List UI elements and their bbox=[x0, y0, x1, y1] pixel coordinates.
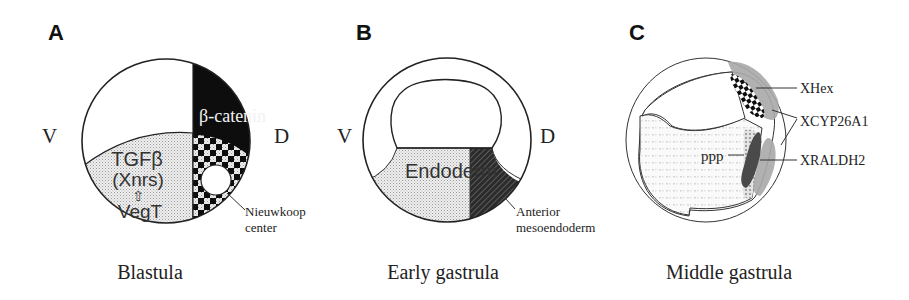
embryo-figure: A β-catenin TGFβ (Xnrs) ⇧ VegT V D Nieuw… bbox=[0, 0, 909, 300]
panel-b: B Endoderm V D Anterior mesoendoderm Ear… bbox=[337, 20, 595, 284]
beta-catenin-label: β-catenin bbox=[199, 106, 266, 126]
tgfb-label: TGFβ bbox=[111, 148, 163, 170]
blastula-embryo bbox=[78, 55, 263, 235]
nieuwkoop-leader-line bbox=[227, 193, 245, 210]
dorsal-label-b: D bbox=[540, 124, 555, 148]
center-label: center bbox=[245, 220, 277, 235]
endoderm-label: Endoderm bbox=[405, 160, 497, 182]
mesoendoderm-label: mesoendoderm bbox=[516, 220, 595, 235]
nieuwkoop-label: Nieuwkoop bbox=[245, 204, 306, 219]
xhex-label: XHex bbox=[800, 81, 833, 96]
nieuwkoop-center bbox=[201, 165, 231, 195]
xcyp26a1-label: XCYP26A1 bbox=[800, 114, 868, 129]
mesoendoderm-leader-line bbox=[505, 198, 515, 209]
caption-early-gastrula: Early gastrula bbox=[387, 261, 499, 284]
blastocoel bbox=[391, 80, 501, 149]
ventral-label-a: V bbox=[42, 124, 57, 148]
vegt-label: VegT bbox=[118, 201, 163, 222]
ppp-label: ppp bbox=[701, 148, 724, 164]
panel-letter-b: B bbox=[356, 20, 372, 45]
xnrs-label: (Xnrs) bbox=[112, 169, 164, 190]
panel-c: C XHex XCYP26A1 XRALDH2 ppp Middle gastr… bbox=[626, 20, 868, 284]
panel-a: A β-catenin TGFβ (Xnrs) ⇧ VegT V D Nieuw… bbox=[42, 20, 306, 283]
panel-letter-c: C bbox=[629, 20, 645, 45]
panel-letter-a: A bbox=[48, 20, 64, 45]
anterior-label: Anterior bbox=[516, 204, 561, 219]
ventral-label-b: V bbox=[337, 124, 352, 148]
caption-blastula: Blastula bbox=[117, 261, 183, 283]
caption-middle-gastrula: Middle gastrula bbox=[666, 261, 792, 284]
xraldh2-label: XRALDH2 bbox=[800, 153, 865, 168]
dorsal-label-a: D bbox=[274, 124, 289, 148]
